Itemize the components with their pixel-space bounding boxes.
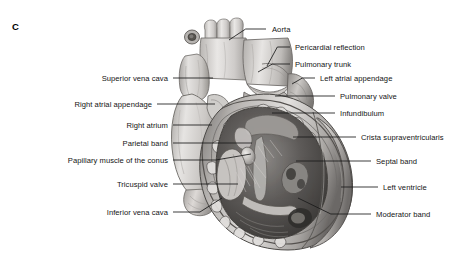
right-ventricle-structure — [200, 94, 353, 250]
label-inferior-vena-cava: Inferior vena cava — [107, 208, 168, 217]
label-papillary-muscle-of-the-conus: Papillary muscle of the conus — [68, 156, 168, 165]
label-pericardial-reflection: Pericardial reflection — [295, 43, 365, 52]
label-pulmonary-valve: Pulmonary valve — [340, 92, 397, 101]
label-tricuspid-valve: Tricuspid valve — [117, 180, 168, 189]
label-infundibulum: Infundibulum — [340, 109, 384, 118]
label-right-atrium: Right atrium — [126, 121, 168, 130]
label-crista-supraventricularis: Crista supraventricularis — [361, 133, 444, 142]
label-moderator-band: Moderator band — [376, 210, 430, 219]
label-aorta: Aorta — [272, 25, 290, 34]
panel-letter: C — [12, 21, 19, 32]
label-pulmonary-trunk: Pulmonary trunk — [295, 60, 351, 69]
superior-vena-cava-structure — [179, 54, 209, 101]
label-left-atrial-appendage: Left atrial appendage — [320, 74, 392, 83]
label-parietal-band: Parietal band — [123, 139, 168, 148]
label-septal-band: Septal band — [376, 157, 417, 166]
label-superior-vena-cava: Superior vena cava — [102, 74, 168, 83]
label-right-atrial-appendage: Right atrial appendage — [74, 100, 152, 109]
label-left-ventricle: Left ventricle — [383, 183, 427, 192]
